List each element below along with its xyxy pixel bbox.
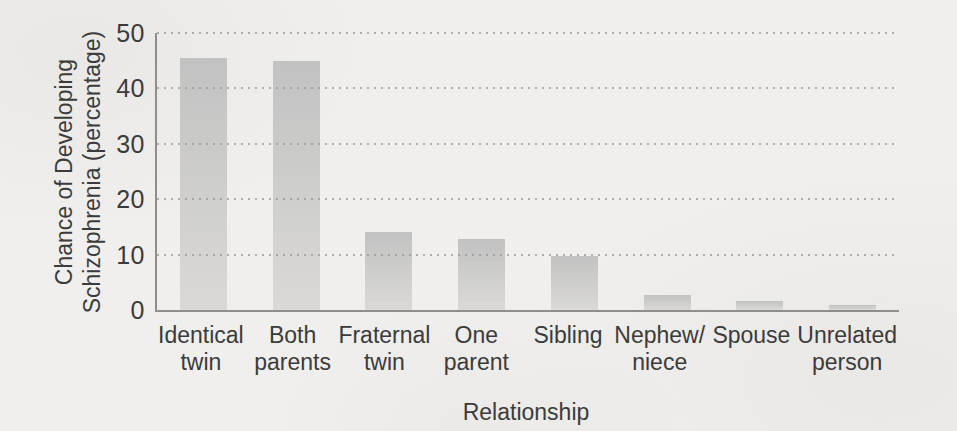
- y-tick-label-10: 10: [85, 241, 145, 269]
- bar-slot-4: [528, 33, 621, 310]
- plot-area: [155, 33, 899, 312]
- gridline-50: [157, 32, 899, 34]
- x-category-labels: Identical twinBoth parentsFraternal twin…: [155, 322, 897, 376]
- bar-slot-5: [621, 33, 714, 310]
- y-tick-label-40: 40: [85, 74, 145, 102]
- x-axis-title: Relationship: [155, 399, 897, 426]
- x-category-label-6: Spouse: [706, 322, 798, 376]
- bar-5: [644, 295, 691, 311]
- gridline-10: [157, 254, 899, 256]
- bars-container: [157, 33, 899, 310]
- x-category-label-2: Fraternal twin: [338, 322, 430, 376]
- bar-2: [365, 232, 412, 310]
- bar-slot-2: [343, 33, 436, 310]
- x-category-label-1: Both parents: [247, 322, 339, 376]
- y-axis-title-line1: Chance of Developing: [50, 0, 78, 362]
- x-category-label-5: Nephew/ niece: [614, 322, 706, 376]
- y-tick-label-0: 0: [85, 296, 145, 324]
- x-category-label-0: Identical twin: [155, 322, 247, 376]
- bar-4: [551, 256, 598, 310]
- bar-slot-3: [435, 33, 528, 310]
- schizophrenia-risk-bar-chart: Chance of Developing Schizophrenia (perc…: [0, 0, 957, 431]
- y-tick-label-20: 20: [85, 185, 145, 213]
- bar-3: [458, 239, 505, 310]
- bar-slot-7: [806, 33, 899, 310]
- bar-slot-1: [250, 33, 343, 310]
- bar-1: [273, 61, 320, 310]
- bar-slot-0: [157, 33, 250, 310]
- gridline-30: [157, 143, 899, 145]
- x-category-label-3: One parent: [430, 322, 522, 376]
- y-tick-label-30: 30: [85, 130, 145, 158]
- bar-slot-6: [714, 33, 807, 310]
- x-category-label-4: Sibling: [522, 322, 614, 376]
- x-category-label-7: Unrelated person: [797, 322, 897, 376]
- gridline-40: [157, 87, 899, 89]
- bar-0: [180, 58, 227, 310]
- bar-6: [736, 301, 783, 310]
- gridline-20: [157, 198, 899, 200]
- bar-7: [829, 305, 876, 310]
- y-tick-label-50: 50: [85, 19, 145, 47]
